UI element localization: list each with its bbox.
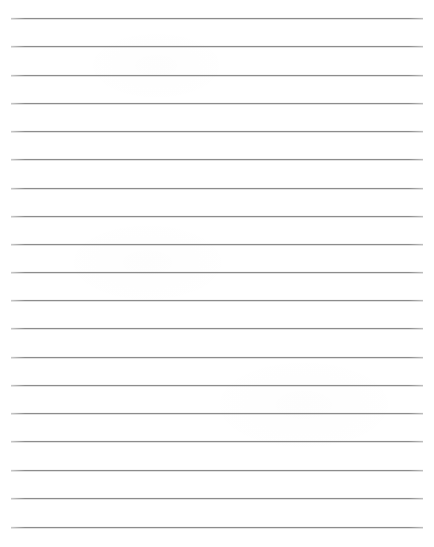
lined-paper-page xyxy=(0,0,434,547)
writing-area[interactable] xyxy=(0,0,434,547)
